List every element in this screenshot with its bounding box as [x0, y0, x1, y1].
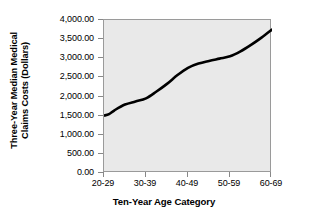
line-chart: Three-Year Median Medical Claims Costs (…: [0, 0, 314, 219]
y-axis-tick-label: 3,000.00: [60, 52, 94, 62]
x-axis-tick-label: 40-49: [176, 178, 199, 188]
x-axis-tick-mark: [229, 172, 230, 177]
x-axis-tick-label: 20-29: [92, 178, 115, 188]
y-axis-tick-mark: [98, 115, 103, 116]
plot-area: [103, 19, 271, 172]
x-axis-title: Ten-Year Age Category: [40, 196, 288, 207]
x-axis-tick-label: 60-69: [260, 178, 283, 188]
x-axis-tick-mark: [187, 172, 188, 177]
y-axis-tick-mark: [98, 134, 103, 135]
data-line-series: [104, 20, 272, 173]
series-path-medical-claims: [104, 30, 272, 116]
x-axis-tick-mark: [145, 172, 146, 177]
y-axis-tick-mark: [98, 38, 103, 39]
y-axis-tick-mark: [98, 57, 103, 58]
y-axis-title-line-1: Three-Year Median Medical: [9, 32, 20, 149]
y-axis-tick-label: 4,000.00: [60, 14, 94, 24]
x-axis-tick-mark: [103, 172, 104, 177]
y-axis-tick-label: 1,500.00: [60, 110, 94, 120]
x-axis-tick-label: 30-39: [134, 178, 157, 188]
y-axis-tick-label: 1,000.00: [60, 129, 94, 139]
y-axis-tick-mark: [98, 153, 103, 154]
y-axis-tick-label: 0.00: [77, 167, 94, 177]
y-axis-title: Three-Year Median Medical Claims Costs (…: [0, 0, 40, 180]
y-axis-title-line-2: Claims Costs (Dollars): [20, 32, 31, 149]
y-axis-tick-label: 2,000.00: [60, 91, 94, 101]
y-axis-tick-mark: [98, 96, 103, 97]
y-axis-tick-label: 3,500.00: [60, 33, 94, 43]
y-axis-tick-label: 2,500.00: [60, 71, 94, 81]
x-axis-tick-labels: 20-2930-3940-4950-5960-69: [0, 178, 314, 192]
x-axis-tick-label: 50-59: [218, 178, 241, 188]
y-axis-tick-labels: 0.00500.001,000.001,500.002,000.002,500.…: [40, 19, 98, 172]
x-axis-tick-mark: [270, 172, 271, 177]
y-axis-tick-mark: [98, 76, 103, 77]
y-axis-tick-label: 500.00: [67, 148, 94, 158]
y-axis-tick-mark: [98, 19, 103, 20]
